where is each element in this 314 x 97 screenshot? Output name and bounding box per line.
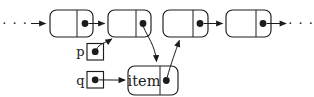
list-node-3 [163, 10, 208, 37]
list-node-2 [108, 10, 151, 37]
pointer-q: q [76, 72, 125, 89]
list-node-1 [50, 10, 93, 37]
node-3-next-dot [197, 20, 204, 27]
item-node-next-dot [163, 77, 170, 84]
pointer-p-dot [92, 48, 99, 55]
item-node-label: item [128, 73, 161, 89]
pointer-p: p [76, 39, 112, 60]
pointer-q-label: q [76, 73, 84, 88]
arrow-node2-to-item [144, 27, 157, 62]
arrow-p-to-node2 [97, 39, 112, 50]
pointer-p-label: p [76, 44, 84, 59]
ellipsis-right: · · · [288, 16, 314, 31]
linked-list-diagram: · · · [0, 0, 314, 97]
linked-list-figure: · · · [0, 0, 314, 97]
node-1-next-dot [82, 20, 89, 27]
list-node-4 [226, 10, 271, 37]
ellipsis-left: · · · [2, 16, 28, 31]
pointer-q-dot [92, 76, 99, 83]
node-4-next-dot [260, 20, 267, 27]
item-node: item [128, 66, 178, 95]
node-2-next-dot [140, 20, 147, 27]
